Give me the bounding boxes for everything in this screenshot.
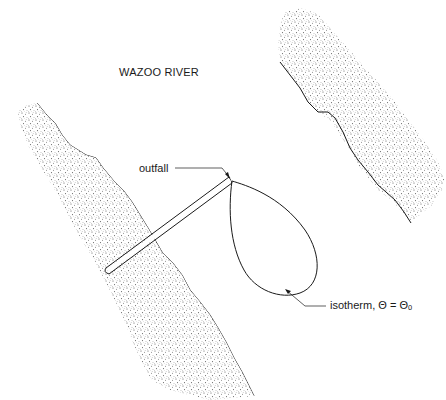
thermal-plume bbox=[230, 181, 317, 295]
outfall-label: outfall bbox=[139, 162, 168, 174]
river-outfall-diagram: WAZOO RIVER outfall isotherm, Θ = Θₒ bbox=[0, 0, 446, 400]
isotherm-label: isotherm, Θ = Θₒ bbox=[330, 299, 412, 311]
outfall-leader bbox=[175, 168, 230, 179]
river-name-title: WAZOO RIVER bbox=[119, 66, 199, 78]
diagram-graphics bbox=[0, 0, 446, 400]
right-river-bank bbox=[278, 8, 445, 223]
isotherm-leader bbox=[285, 289, 326, 306]
